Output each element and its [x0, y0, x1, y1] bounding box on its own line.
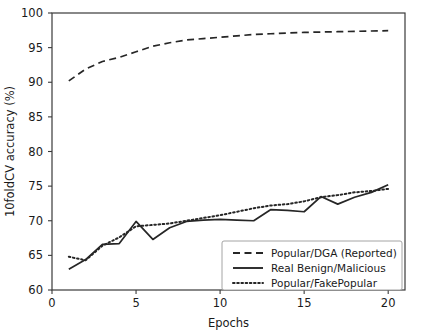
legend-label: Popular/FakePopular — [271, 277, 378, 289]
y-tick-label: 65 — [28, 248, 43, 262]
x-tick-label: 5 — [132, 296, 139, 310]
legend-label: Popular/DGA (Reported) — [271, 247, 397, 259]
data-series-group — [69, 31, 388, 270]
legend: Popular/DGA (Reported)Real Benign/Malici… — [222, 241, 402, 290]
legend-label: Real Benign/Malicious — [271, 262, 386, 274]
x-tick-label: 10 — [213, 296, 228, 310]
series-line — [69, 31, 388, 81]
y-tick-label: 70 — [28, 214, 43, 228]
x-tick-label: 0 — [48, 296, 55, 310]
y-tick-label: 85 — [28, 110, 43, 124]
figure: 051015206065707580859095100 Epochs 10fol… — [0, 0, 433, 331]
x-tick-label: 15 — [297, 296, 312, 310]
y-tick-label: 100 — [21, 6, 43, 20]
y-axis-label: 10foldCV accuracy (%) — [3, 86, 17, 217]
y-tick-label: 95 — [28, 41, 43, 55]
y-tick-label: 80 — [28, 145, 43, 159]
y-tick-label: 90 — [28, 75, 43, 89]
x-axis-label: Epochs — [208, 316, 249, 330]
y-tick-label: 75 — [28, 179, 43, 193]
y-tick-label: 60 — [28, 283, 43, 297]
x-tick-label: 20 — [381, 296, 396, 310]
line-chart: 051015206065707580859095100 Epochs 10fol… — [0, 0, 433, 331]
